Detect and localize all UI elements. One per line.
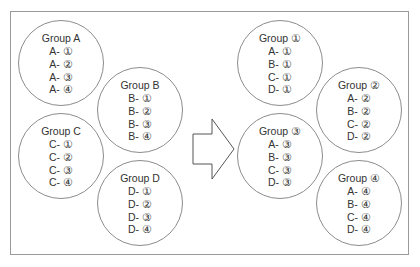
group-item: C- ② [347, 118, 371, 131]
group-item: A- ② [49, 58, 72, 71]
group-item: C- ③ [268, 164, 292, 177]
group-1-circle: Group ① A- ① B- ① C- ① D- ① [237, 20, 323, 106]
group-item: C- ② [49, 151, 73, 164]
group-item: A- ③ [49, 71, 72, 84]
group-title: Group B [120, 79, 159, 92]
group-item: B- ① [128, 92, 151, 105]
group-title: Group D [120, 172, 160, 185]
group-title: Group ② [338, 79, 380, 92]
group-item: C- ④ [49, 176, 73, 189]
group-item: D- ④ [347, 223, 371, 236]
group-title: Group ① [259, 32, 301, 45]
group-item: C- ① [49, 138, 73, 151]
group-4-circle: Group ④ A- ④ B- ④ C- ④ D- ④ [316, 160, 402, 246]
group-item: D- ③ [268, 176, 292, 189]
group-item: B- ② [347, 105, 370, 118]
group-item: D- ① [128, 185, 152, 198]
group-item: C- ③ [49, 164, 73, 177]
group-item: B- ② [128, 105, 151, 118]
group-item: B- ① [268, 58, 291, 71]
group-title: Group ③ [259, 125, 301, 138]
group-item: D- ④ [128, 223, 152, 236]
group-c-circle: Group C C- ① C- ② C- ③ C- ④ [18, 113, 104, 199]
group-item: A- ② [347, 92, 370, 105]
group-item: D- ① [268, 83, 292, 96]
group-item: D- ② [347, 130, 371, 143]
group-d-circle: Group D D- ① D- ② D- ③ D- ④ [97, 160, 183, 246]
group-title: Group C [41, 125, 81, 138]
group-item: A- ① [268, 45, 291, 58]
right-arrow-icon [192, 118, 236, 180]
group-a-circle: Group A A- ① A- ② A- ③ A- ④ [18, 20, 104, 106]
group-item: D- ② [128, 198, 152, 211]
group-item: C- ① [268, 71, 292, 84]
group-item: B- ④ [128, 130, 151, 143]
group-item: B- ④ [347, 198, 370, 211]
group-b-circle: Group B B- ① B- ② B- ③ B- ④ [97, 67, 183, 153]
group-2-circle: Group ② A- ② B- ② C- ② D- ② [316, 67, 402, 153]
group-3-circle: Group ③ A- ③ B- ③ C- ③ D- ③ [237, 113, 323, 199]
group-item: A- ① [49, 45, 72, 58]
group-item: A- ③ [268, 138, 291, 151]
group-item: A- ④ [49, 83, 72, 96]
group-item: D- ③ [128, 211, 152, 224]
group-item: C- ④ [347, 211, 371, 224]
group-title: Group ④ [338, 172, 380, 185]
group-item: B- ③ [128, 118, 151, 131]
group-title: Group A [42, 32, 81, 45]
group-item: A- ④ [347, 185, 370, 198]
group-item: B- ③ [268, 151, 291, 164]
